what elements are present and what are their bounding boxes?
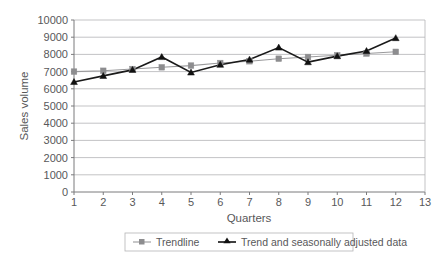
series-line-adjusted bbox=[74, 38, 396, 82]
data-point-adjusted-q12 bbox=[392, 35, 399, 41]
data-point-trendline-q8 bbox=[276, 56, 282, 62]
x-axis-tick-labels: 12345678910111213 bbox=[71, 196, 431, 208]
series-markers-adjusted bbox=[71, 35, 400, 85]
y-tick-label-2000: 2000 bbox=[44, 152, 68, 164]
y-tick-label-1000: 1000 bbox=[44, 169, 68, 181]
data-point-adjusted-q8 bbox=[275, 44, 282, 50]
x-tick-label-5: 5 bbox=[188, 196, 194, 208]
y-axis-tick-labels: 0100020003000400050006000700080009000100… bbox=[37, 14, 68, 198]
x-tick-label-1: 1 bbox=[71, 196, 77, 208]
x-tick-label-6: 6 bbox=[217, 196, 223, 208]
legend-label-trendline: Trendline bbox=[156, 236, 200, 248]
x-tick-label-10: 10 bbox=[331, 196, 343, 208]
y-tick-label-10000: 10000 bbox=[37, 14, 68, 26]
data-point-trendline-q12 bbox=[393, 49, 399, 55]
y-tick-label-0: 0 bbox=[62, 186, 68, 198]
y-tick-label-5000: 5000 bbox=[44, 100, 68, 112]
x-tick-label-13: 13 bbox=[419, 196, 431, 208]
y-tick-label-6000: 6000 bbox=[44, 83, 68, 95]
y-tick-label-9000: 9000 bbox=[44, 31, 68, 43]
x-tick-label-3: 3 bbox=[129, 196, 135, 208]
data-point-trendline-q1 bbox=[71, 69, 77, 75]
y-tick-label-8000: 8000 bbox=[44, 48, 68, 60]
y-tick-label-3000: 3000 bbox=[44, 134, 68, 146]
data-point-trendline-q5 bbox=[188, 63, 194, 69]
y-tick-label-7000: 7000 bbox=[44, 66, 68, 78]
legend-marker-square-icon bbox=[139, 239, 145, 245]
x-tick-label-12: 12 bbox=[390, 196, 402, 208]
x-tick-label-2: 2 bbox=[100, 196, 106, 208]
chart-container: 0100020003000400050006000700080009000100… bbox=[0, 0, 442, 265]
legend: Trendline Trend and seasonally adjusted … bbox=[125, 233, 407, 251]
x-tick-label-8: 8 bbox=[276, 196, 282, 208]
x-tick-label-4: 4 bbox=[159, 196, 165, 208]
x-axis-title: Quarters bbox=[227, 212, 272, 224]
sales-volume-line-chart: 0100020003000400050006000700080009000100… bbox=[0, 0, 442, 265]
legend-label-adjusted: Trend and seasonally adjusted data bbox=[241, 236, 407, 248]
data-point-trendline-q4 bbox=[159, 65, 165, 71]
x-tick-label-7: 7 bbox=[246, 196, 252, 208]
y-axis-title: Sales volume bbox=[18, 71, 30, 140]
x-tick-label-11: 11 bbox=[361, 196, 372, 208]
gridlines-group bbox=[74, 20, 425, 175]
y-tick-label-4000: 4000 bbox=[44, 117, 68, 129]
x-tick-label-9: 9 bbox=[305, 196, 311, 208]
